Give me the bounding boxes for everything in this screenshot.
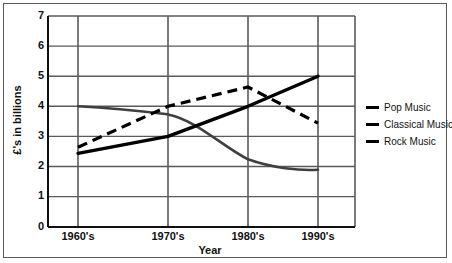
y-tick-1: 1	[24, 189, 44, 201]
gridlines-vertical	[78, 16, 355, 227]
legend-label-rock-music: Rock Music	[384, 136, 436, 147]
y-tick-0: 0	[24, 220, 44, 232]
chart-figure: 7 6 5 4 3 2 1 0 1960's 1970's 1980's 199…	[0, 0, 452, 263]
legend-swatch-rock-music	[366, 140, 379, 143]
x-tick-1960s: 1960's	[43, 230, 113, 242]
legend-item-pop-music: Pop Music	[366, 99, 450, 116]
y-tick-2: 2	[24, 159, 44, 171]
y-axis-label: £'s in billions	[11, 60, 23, 180]
series-line-classical-music	[78, 87, 318, 147]
x-tick-1990s: 1990's	[283, 230, 353, 242]
legend-item-classical-music: Classical Music	[366, 116, 450, 133]
x-axis-label: Year	[150, 244, 270, 256]
legend-swatch-pop-music	[366, 106, 379, 109]
x-tick-1980s: 1980's	[213, 230, 283, 242]
chart-legend: Pop Music Classical Music Rock Music	[366, 99, 450, 150]
y-tick-6: 6	[24, 39, 44, 51]
y-tick-3: 3	[24, 129, 44, 141]
y-tick-4: 4	[24, 99, 44, 111]
legend-label-classical-music: Classical Music	[384, 119, 452, 130]
series-line-pop-music	[78, 76, 318, 153]
legend-swatch-classical-music	[366, 123, 379, 126]
legend-label-pop-music: Pop Music	[384, 102, 431, 113]
x-tick-1970s: 1970's	[133, 230, 203, 242]
y-tick-7: 7	[24, 9, 44, 21]
legend-item-rock-music: Rock Music	[366, 133, 450, 150]
series-line-rock-music	[78, 106, 318, 170]
y-tick-5: 5	[24, 69, 44, 81]
